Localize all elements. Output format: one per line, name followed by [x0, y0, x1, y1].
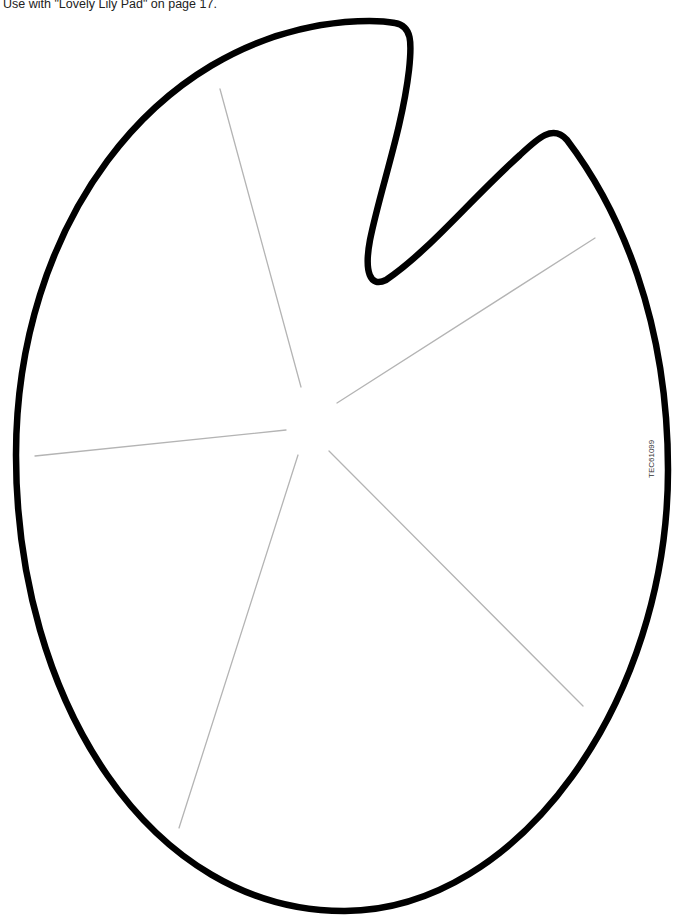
vein-line-lower-left: [179, 455, 298, 828]
vein-line-left: [35, 430, 286, 456]
vein-line-lower-right: [329, 451, 583, 706]
lily-pad-veins: [35, 89, 595, 828]
lily-pad-illustration: [0, 0, 682, 919]
vein-line-upper-right: [337, 238, 595, 403]
vein-line-top: [220, 89, 301, 387]
product-code: TEC61099: [647, 440, 656, 478]
lily-pad-outline: [16, 21, 668, 911]
